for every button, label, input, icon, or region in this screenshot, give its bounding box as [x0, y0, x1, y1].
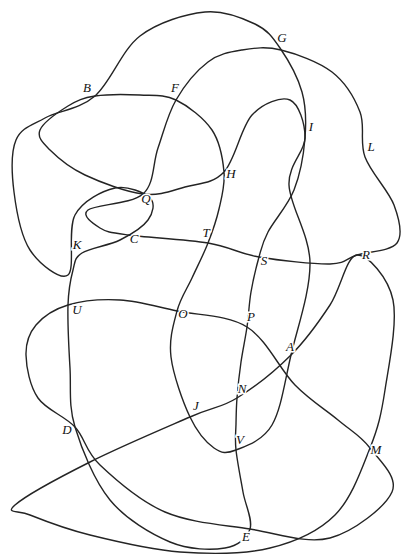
crossing-label-D: D — [61, 422, 72, 437]
crossing-label-E: E — [241, 529, 250, 544]
crossing-label-R: R — [361, 247, 370, 262]
closed-curve-1 — [12, 12, 306, 550]
closed-curve-4 — [26, 300, 393, 540]
crossing-label-U: U — [72, 302, 83, 317]
crossing-label-S: S — [261, 253, 268, 268]
curves-canvas: ABCDEFGHIJKLMNOPQRSTUV — [0, 0, 416, 559]
crossing-label-P: P — [246, 309, 255, 324]
crossing-label-F: F — [170, 80, 180, 95]
crossing-label-M: M — [370, 442, 383, 457]
knot-diagram: ABCDEFGHIJKLMNOPQRSTUV — [0, 0, 416, 559]
crossing-label-O: O — [178, 306, 188, 321]
crossing-label-N: N — [237, 381, 248, 396]
closed-curve-2 — [39, 95, 310, 453]
crossing-label-L: L — [366, 139, 374, 154]
crossing-label-J: J — [193, 398, 200, 413]
crossing-label-A: A — [285, 339, 294, 354]
crossing-label-K: K — [72, 237, 83, 252]
crossing-label-B: B — [83, 80, 91, 95]
crossing-label-Q: Q — [141, 191, 151, 206]
crossing-label-G: G — [277, 30, 287, 45]
crossing-label-I: I — [308, 119, 314, 134]
crossing-label-C: C — [130, 231, 139, 246]
crossing-label-H: H — [225, 166, 236, 181]
crossing-label-V: V — [236, 432, 246, 447]
crossing-label-T: T — [202, 225, 210, 240]
